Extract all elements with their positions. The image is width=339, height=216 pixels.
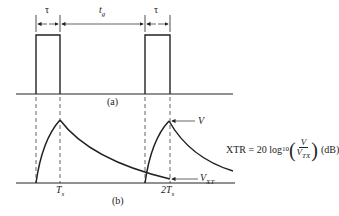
dashed-guides (36, 97, 170, 183)
crosstalk-label-sub: XT (206, 178, 214, 186)
gap-label: tg (99, 5, 105, 18)
crosstalk-ratio-formula: XTR = 20 log10 ( V VTX ) (dB) (226, 138, 339, 160)
tick-ts: Ts (56, 185, 64, 198)
formula-log-base: 10 (282, 145, 289, 153)
open-paren: ( (289, 138, 296, 160)
formula-unit: (dB) (321, 144, 339, 155)
formula-lhs: XTR = 20 log (226, 144, 282, 155)
peak-voltage-label: V (198, 116, 204, 126)
gap-label-sub: g (102, 10, 106, 18)
denominator-sub: TX (302, 152, 310, 160)
panel-b-label: (b) (112, 196, 124, 206)
formula-denominator: VTX (297, 148, 311, 160)
panel-a-label: (a) (107, 97, 118, 107)
tick-ts-sub: s (62, 190, 65, 198)
tau-label-2: τ (154, 5, 158, 15)
pulse-train (36, 35, 170, 94)
formula-fraction: V VTX (297, 138, 311, 160)
tick-2ts-main: 2T (161, 184, 172, 195)
tick-2ts-sub: s (172, 190, 175, 198)
crosstalk-voltage-label: VXT (200, 173, 214, 186)
close-paren: ) (311, 138, 318, 160)
tick-2ts: 2Ts (161, 185, 174, 198)
tau-label-1: τ (45, 5, 49, 15)
